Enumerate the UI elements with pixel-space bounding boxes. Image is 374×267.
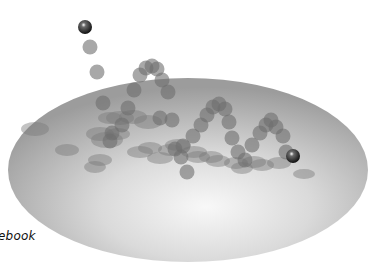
ghost-ball bbox=[218, 102, 233, 117]
ghost-ball bbox=[238, 153, 253, 168]
ball-shadow bbox=[55, 144, 79, 156]
ghost-ball bbox=[161, 85, 176, 100]
caption-text: ebook bbox=[0, 229, 36, 243]
ghost-ball bbox=[83, 40, 98, 55]
ball-shadow bbox=[84, 161, 106, 173]
ghost-ball bbox=[153, 111, 168, 126]
ghost-ball bbox=[121, 101, 136, 116]
ghost-ball bbox=[127, 83, 142, 98]
ball-shadow bbox=[293, 169, 315, 179]
ghost-ball bbox=[276, 129, 291, 144]
start-ball bbox=[78, 20, 92, 34]
ghost-ball bbox=[96, 96, 111, 111]
ghost-ball bbox=[103, 134, 118, 149]
ghost-ball bbox=[115, 118, 130, 133]
ball-shadow bbox=[21, 122, 49, 136]
ghost-ball bbox=[222, 115, 237, 130]
end-ball bbox=[286, 149, 300, 163]
ghost-ball bbox=[180, 165, 195, 180]
bouncing-ball-scene bbox=[0, 0, 374, 267]
ghost-ball bbox=[90, 65, 105, 80]
ghost-ball bbox=[225, 131, 240, 146]
